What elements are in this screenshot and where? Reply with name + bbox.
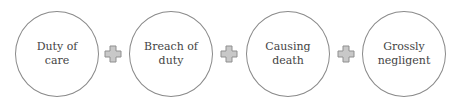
plus-icon [104,45,122,63]
circle-duty-of-care: Duty of care [15,11,99,97]
circle-breach-of-duty: Breach of duty [129,11,213,97]
circle-label: Breach of duty [144,40,198,68]
plus-icon [220,45,238,63]
circle-label: Grossly negligent [378,40,431,68]
circle-label: Causing death [265,40,310,68]
plus-icon [337,45,355,63]
circle-causing-death: Causing death [246,11,330,97]
circle-grossly-negligent: Grossly negligent [362,11,446,97]
circle-label: Duty of care [37,40,78,68]
